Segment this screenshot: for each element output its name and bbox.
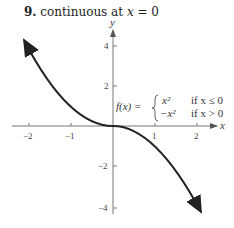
svg-text:x²: x² bbox=[161, 94, 171, 106]
y-tick-label: 4 bbox=[104, 41, 109, 51]
x-tick-label: −2 bbox=[23, 131, 33, 141]
graph: x y −2 −1 1 2 4 2 −2 −4 f(x) = x² if x ≤… bbox=[0, 0, 234, 228]
x-tick-label: 1 bbox=[152, 131, 157, 141]
y-tick-label: −2 bbox=[98, 161, 108, 171]
function-definition: f(x) = x² if x ≤ 0 −x² if x > 0 bbox=[116, 94, 224, 121]
curve-left-arrow bbox=[24, 40, 32, 54]
y-tick-label: 2 bbox=[104, 81, 109, 91]
svg-text:if x ≤ 0: if x ≤ 0 bbox=[191, 94, 224, 106]
y-axis-label: y bbox=[109, 16, 115, 28]
svg-text:−x²: −x² bbox=[160, 107, 176, 119]
svg-text:f(x) =: f(x) = bbox=[116, 100, 141, 113]
x-axis-label: x bbox=[219, 119, 225, 131]
x-tick-label: −1 bbox=[65, 131, 75, 141]
x-tick-label: 2 bbox=[194, 131, 199, 141]
y-tick-label: −4 bbox=[98, 203, 108, 213]
svg-text:if x > 0: if x > 0 bbox=[191, 107, 224, 119]
